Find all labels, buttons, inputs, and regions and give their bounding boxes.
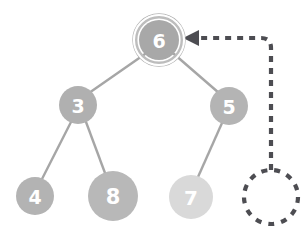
diagram-canvas: 635487 [0,0,305,233]
tree-edge-n3-n4 [42,122,71,179]
node-label-5: 5 [222,96,235,118]
tree-edge-n6-n3 [89,54,145,93]
node-label-3: 3 [71,95,84,117]
tree-node-4[interactable]: 4 [16,177,54,215]
tree-node-3[interactable]: 3 [59,86,97,124]
null-placeholder-node [244,170,298,224]
node-label-7: 7 [184,186,198,210]
tree-node-6[interactable]: 6 [133,14,185,66]
binary-tree-svg: 635487 [0,0,305,233]
tree-node-5[interactable]: 5 [210,87,248,125]
tree-node-8[interactable]: 8 [88,171,138,221]
node-label-6: 6 [152,30,165,52]
node-label-4: 4 [28,186,41,208]
tree-edge-n5-n7 [198,123,222,177]
tree-edge-n3-n8 [86,122,105,173]
tree-edge-n6-n5 [174,54,219,93]
node-label-8: 8 [106,185,121,209]
tree-node-7[interactable]: 7 [169,175,213,219]
